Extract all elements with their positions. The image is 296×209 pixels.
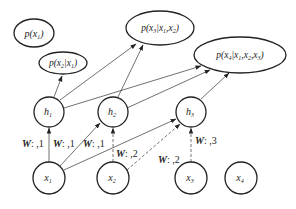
output-label-p1: p(x1) [23,28,44,40]
weight-label-x2-h3: W: ,2 [158,154,180,165]
output-node-p2: p(x2|x1) [39,52,87,74]
output-node-p3: p(x3|x1,x2) [126,11,194,45]
weight-label-x1-h3: W: ,1 [83,138,105,149]
hidden-node-h1: h1 [34,97,64,127]
weight-label-x1-h1: W: ,1 [22,138,44,149]
hidden-node-h2: h2 [98,97,128,127]
edge-h3-p4 [201,73,229,99]
diagram-canvas: p(x1) p(x2|x1) p(x3|x1,x2) p(x4|x1,x2,x3… [0,0,296,209]
edge-h2-p3 [118,45,143,97]
input-node-x1: x1 [33,162,65,194]
output-node-p4: p(x4|x1,x2,x3) [194,37,286,73]
weight-labels: W: ,1 W: ,1 W: ,1 W: ,2 W: ,2 W: ,3 [22,135,217,165]
input-node-x2: x2 [97,162,129,194]
input-node-x3: x3 [175,162,207,194]
input-node-x4: x4 [225,162,257,194]
hidden-node-h3: h3 [176,97,206,127]
weight-label-x2-h2: W: ,2 [116,148,138,159]
weight-label-x3-h3: W: ,3 [195,135,217,146]
output-node-p1: p(x1) [14,19,54,47]
weight-label-x1-h2: W: ,1 [53,138,75,149]
edge-h1-p2 [54,76,62,97]
